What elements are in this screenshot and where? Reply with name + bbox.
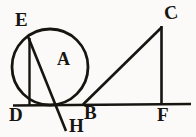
- label-point-F: F: [157, 105, 169, 124]
- label-point-E: E: [15, 10, 28, 29]
- geometry-figure: E A D B H C F: [0, 0, 196, 137]
- label-point-B: B: [84, 103, 97, 122]
- label-point-D: D: [9, 105, 23, 124]
- segment-BC: [83, 27, 162, 105]
- label-point-A: A: [57, 50, 70, 68]
- label-point-H: H: [69, 116, 84, 135]
